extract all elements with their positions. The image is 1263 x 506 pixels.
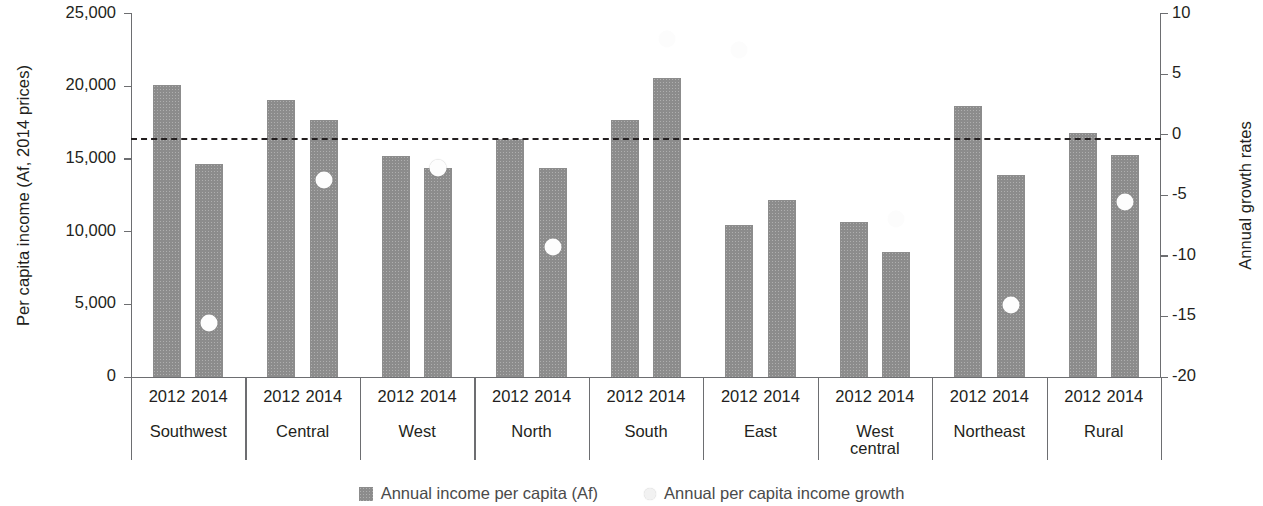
chart-legend: Annual income per capita (Af) Annual per… xyxy=(0,484,1263,503)
category-separator xyxy=(360,378,361,460)
x-axis-year-label: 2014 xyxy=(181,387,237,406)
legend-item-growth: Annual per capita income growth xyxy=(644,484,904,503)
y-axis-left-tick xyxy=(124,158,131,159)
bar-north-2012 xyxy=(496,139,524,377)
category-separator xyxy=(1047,378,1048,460)
y-axis-right-tick xyxy=(1161,316,1168,317)
category-separator xyxy=(818,378,819,460)
bar-rural-2014 xyxy=(1111,155,1139,377)
growth-marker-northeast-2014 xyxy=(1002,296,1019,313)
bar-central-2012 xyxy=(267,100,295,378)
x-axis-year-label: 2014 xyxy=(1097,387,1153,406)
category-separator xyxy=(474,378,475,460)
category-separator xyxy=(703,378,704,460)
growth-marker-west-2014 xyxy=(430,159,447,176)
x-axis-group-label-rural: Rural xyxy=(1034,423,1174,440)
legend-label-growth: Annual per capita income growth xyxy=(664,484,904,503)
bar-east-2014 xyxy=(768,200,796,377)
growth-marker-west-central-2014 xyxy=(888,210,905,227)
bar-south-2014 xyxy=(653,78,681,378)
y-axis-left-tick xyxy=(124,304,131,305)
y-axis-right-tick-label: 10 xyxy=(1172,3,1190,22)
y-axis-right-tick-label: -20 xyxy=(1172,366,1196,385)
growth-marker-north-2014 xyxy=(544,238,561,255)
growth-marker-rural-2014 xyxy=(1116,193,1133,210)
category-separator xyxy=(932,378,933,460)
category-separator xyxy=(589,378,590,460)
x-axis-year-label: 2014 xyxy=(639,387,695,406)
y-axis-right-title: Annual growth rates xyxy=(1236,68,1255,323)
y-axis-left-tick xyxy=(124,86,131,87)
y-axis-right-tick xyxy=(1161,13,1168,14)
bar-north-2014 xyxy=(539,168,567,377)
bar-southwest-2012 xyxy=(153,85,181,377)
plot-area xyxy=(131,14,1161,377)
bar-west-2012 xyxy=(382,156,410,377)
x-axis-year-label: 2014 xyxy=(754,387,810,406)
y-axis-right-tick-label: -5 xyxy=(1172,184,1187,203)
bar-southwest-2014 xyxy=(195,164,223,378)
category-separator xyxy=(245,378,246,460)
bar-rural-2012 xyxy=(1069,133,1097,377)
y-axis-left-tick-label: 15,000 xyxy=(20,148,116,167)
x-axis-year-label: 2014 xyxy=(868,387,924,406)
x-axis-year-label: 2014 xyxy=(296,387,352,406)
y-axis-right-tick xyxy=(1161,74,1168,75)
bar-swatch-icon xyxy=(359,487,373,501)
y-axis-left-tick xyxy=(124,231,131,232)
x-axis-year-label: 2014 xyxy=(525,387,581,406)
legend-label-income: Annual income per capita (Af) xyxy=(381,484,598,503)
category-axis: 20122014Southwest20122014Central20122014… xyxy=(131,378,1161,466)
y-axis-right-tick xyxy=(1161,195,1168,196)
bar-west-central-2012 xyxy=(840,222,868,378)
bar-northeast-2012 xyxy=(954,106,982,378)
zero-growth-reference-line xyxy=(131,138,1161,140)
growth-marker-south-2014 xyxy=(659,31,676,48)
bar-west-2014 xyxy=(424,168,452,377)
legend-item-income: Annual income per capita (Af) xyxy=(359,484,598,503)
bar-east-2012 xyxy=(725,225,753,378)
y-axis-right-tick xyxy=(1161,255,1168,256)
y-axis-right-tick xyxy=(1161,134,1168,135)
x-axis-year-label: 2014 xyxy=(983,387,1039,406)
y-axis-left-tick-label: 25,000 xyxy=(20,3,116,22)
category-separator xyxy=(131,378,132,460)
y-axis-left-tick-label: 10,000 xyxy=(20,221,116,240)
y-axis-left-tick-label: 5,000 xyxy=(20,293,116,312)
circle-swatch-icon xyxy=(644,488,656,500)
y-axis-left-tick-label: 0 xyxy=(20,366,116,385)
y-axis-right-tick-label: 0 xyxy=(1172,124,1181,143)
y-axis-right-tick-label: -15 xyxy=(1172,305,1196,324)
y-axis-left-tick xyxy=(124,377,131,378)
y-axis-right-tick-label: 5 xyxy=(1172,63,1181,82)
y-axis-left-tick xyxy=(124,13,131,14)
y-axis-right-tick-label: -10 xyxy=(1172,245,1196,264)
bar-northeast-2014 xyxy=(997,175,1025,377)
bar-west-central-2014 xyxy=(882,252,910,377)
growth-marker-southwest-2014 xyxy=(201,314,218,331)
bar-south-2012 xyxy=(611,120,639,377)
growth-marker-central-2014 xyxy=(315,171,332,188)
chart-container: Per capita income (Af, 2014 prices) Annu… xyxy=(0,0,1263,506)
x-axis-year-label: 2014 xyxy=(410,387,466,406)
bar-central-2014 xyxy=(310,120,338,377)
category-separator xyxy=(1161,378,1162,460)
growth-marker-east-2012 xyxy=(731,42,748,59)
y-axis-left-tick-label: 20,000 xyxy=(20,75,116,94)
